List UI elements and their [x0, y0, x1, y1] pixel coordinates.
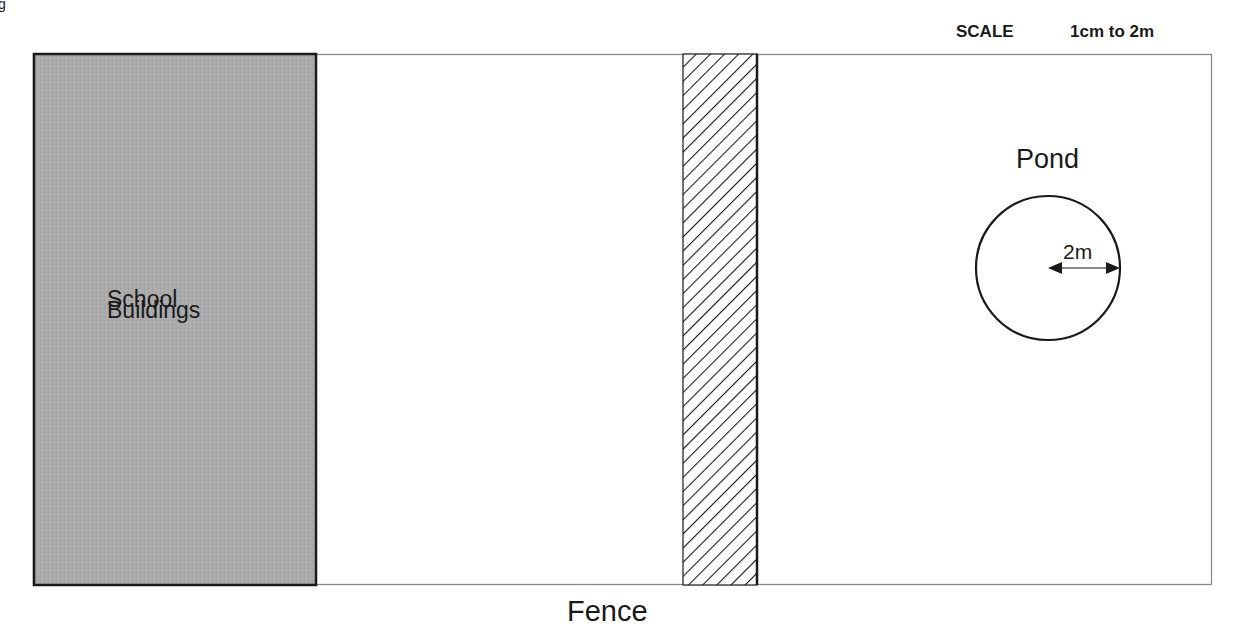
fence-hatched-strip — [683, 54, 757, 585]
scale-value: 1cm to 2m — [1070, 22, 1154, 41]
pond-radius-label: 2m — [1063, 240, 1092, 263]
school-buildings: School Buildings — [34, 54, 316, 585]
fence-label: Fence — [567, 595, 648, 627]
radius-arrowhead-right-icon — [1106, 262, 1120, 274]
scale-title: SCALE — [956, 22, 1014, 41]
fence: Fence — [567, 54, 757, 627]
pond-label: Pond — [1016, 144, 1079, 174]
page-fragment-text: g — [0, 0, 6, 12]
radius-arrowhead-left-icon — [1048, 262, 1062, 274]
school-buildings-label-line2: Buildings — [107, 297, 200, 323]
map-diagram: g SCALE 1cm to 2m School Buildings Fence… — [0, 0, 1244, 629]
pond: Pond 2m — [976, 144, 1120, 340]
